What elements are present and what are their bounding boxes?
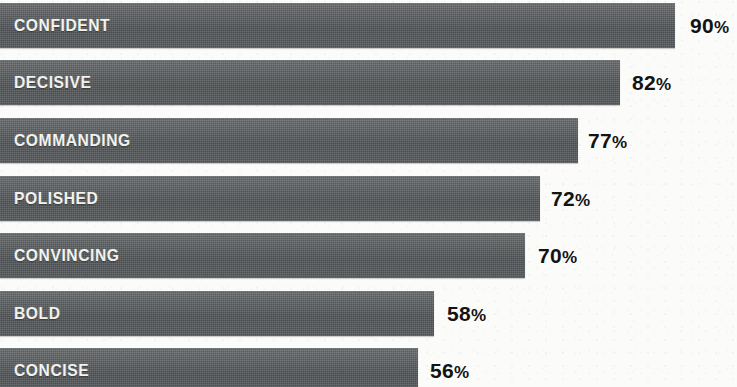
- percent-sign: %: [714, 18, 729, 37]
- bar-row: POLISHED72%: [0, 176, 737, 221]
- bar-value-number: 58: [447, 302, 471, 325]
- bar-category-label: POLISHED: [14, 176, 98, 221]
- bar-rect: [0, 60, 620, 105]
- bar-category-label: BOLD: [14, 291, 61, 336]
- bar-row: COMMANDING77%: [0, 118, 737, 163]
- bar-category-label: CONVINCING: [14, 233, 119, 278]
- percent-sign: %: [562, 248, 577, 267]
- bar-row: CONVINCING70%: [0, 233, 737, 278]
- bar-value-label: 58%: [447, 291, 486, 336]
- bar-value-label: 70%: [538, 233, 577, 278]
- bar-value-label: 77%: [588, 118, 627, 163]
- bar-row: CONCISE56%: [0, 348, 737, 387]
- bar-value-label: 90%: [690, 3, 729, 48]
- bar-value-number: 72: [551, 187, 575, 210]
- bar-value-label: 56%: [430, 348, 469, 387]
- bar-value-number: 56: [430, 359, 454, 382]
- percent-sign: %: [471, 306, 486, 325]
- bar-value-label: 82%: [632, 60, 671, 105]
- bar-value-number: 70: [538, 244, 562, 267]
- bar-value-number: 77: [588, 129, 612, 152]
- bar-row: DECISIVE82%: [0, 60, 737, 105]
- bar-value-number: 90: [690, 14, 714, 37]
- percent-sign: %: [612, 133, 627, 152]
- percent-sign: %: [656, 75, 671, 94]
- bar-value-label: 72%: [551, 176, 590, 221]
- horizontal-bar-chart: CONFIDENT90%DECISIVE82%COMMANDING77%POLI…: [0, 0, 737, 387]
- bar-category-label: COMMANDING: [14, 118, 131, 163]
- percent-sign: %: [575, 191, 590, 210]
- bar-category-label: CONFIDENT: [14, 3, 110, 48]
- bar-category-label: DECISIVE: [14, 60, 91, 105]
- bar-category-label: CONCISE: [14, 348, 89, 387]
- bar-row: BOLD58%: [0, 291, 737, 336]
- percent-sign: %: [454, 363, 469, 382]
- bar-row: CONFIDENT90%: [0, 3, 737, 48]
- bar-rect: [0, 291, 434, 336]
- bar-value-number: 82: [632, 71, 656, 94]
